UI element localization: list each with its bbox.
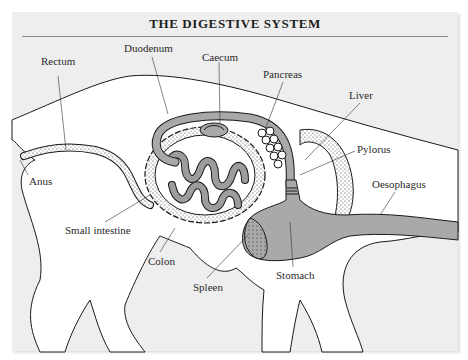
label-pylorus: Pylorus: [357, 144, 391, 155]
label-stomach: Stomach: [276, 270, 315, 281]
label-oesophagus: Oesophagus: [372, 179, 426, 190]
label-small-intestine: Small intestine: [65, 225, 131, 236]
label-duodenum: Duodenum: [124, 43, 173, 54]
label-pancreas: Pancreas: [263, 69, 302, 80]
caecum-shape: [200, 123, 228, 137]
label-colon: Colon: [148, 256, 175, 267]
label-liver: Liver: [349, 90, 373, 101]
label-rectum: Rectum: [41, 56, 75, 67]
label-spleen: Spleen: [193, 282, 223, 293]
label-anus: Anus: [29, 176, 52, 187]
label-caecum: Caecum: [202, 52, 238, 63]
